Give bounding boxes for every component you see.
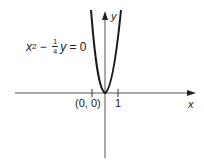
parabola-curve <box>91 10 121 93</box>
x-axis-label: x <box>188 99 194 110</box>
eq-minus: − <box>36 40 50 54</box>
eq-rhs: = 0 <box>66 40 86 54</box>
origin-label: (0, 0) <box>75 98 101 109</box>
x-axis-arrow-icon <box>187 90 196 96</box>
tick-one-label: 1 <box>115 98 121 109</box>
y-axis-arrow-icon <box>102 11 108 20</box>
y-axis-label: y <box>111 11 117 22</box>
equation-label: x2 − 1 4 y = 0 <box>26 38 87 55</box>
eq-denominator: 4 <box>53 48 57 55</box>
eq-numerator: 1 <box>53 38 57 45</box>
eq-fraction: 1 4 <box>52 38 58 55</box>
graph-canvas <box>0 0 204 167</box>
